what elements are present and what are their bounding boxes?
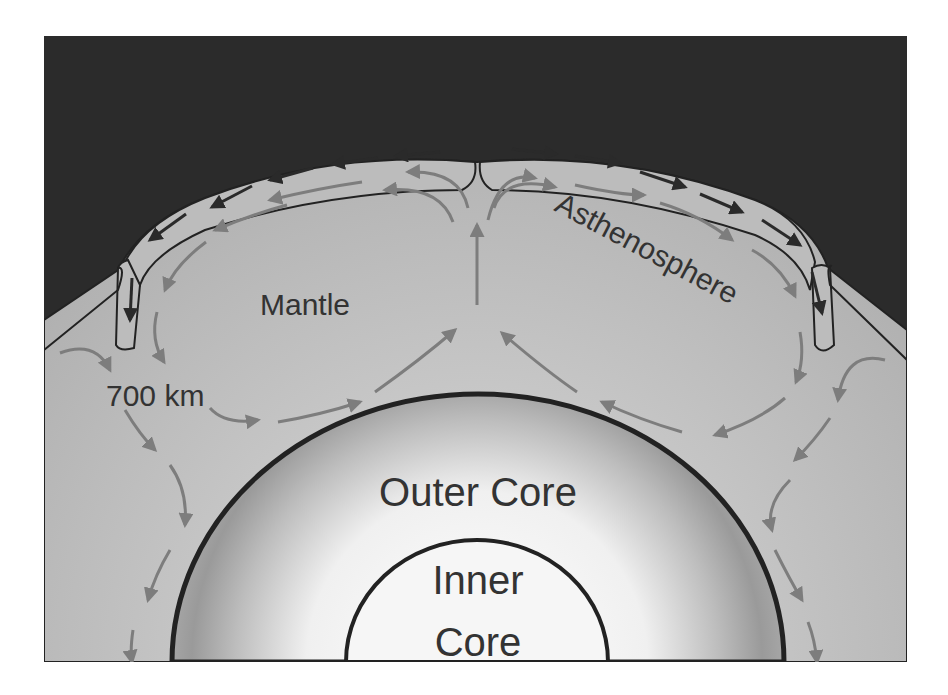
outer-core-label: Outer Core [379, 470, 577, 514]
subducting-slab-right [812, 265, 834, 351]
mantle-label: Mantle [260, 288, 350, 321]
inner-core-label-line1: Inner [432, 558, 523, 602]
inner-core-label-line2: Core [435, 620, 522, 664]
mantle-convection-diagram: Mantle Asthenosphere 700 km Outer Core I… [0, 0, 948, 695]
depth-700km-label: 700 km [106, 379, 204, 412]
